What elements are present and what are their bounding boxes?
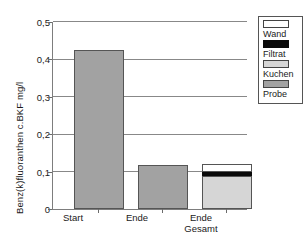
legend-item-kuchen[interactable]: Kuchen	[262, 60, 299, 79]
legend-item-filtrat[interactable]: Filtrat	[262, 40, 299, 59]
bar-segment-probe	[74, 50, 124, 209]
legend-swatch-filtrat	[263, 40, 289, 48]
plot-area	[52, 22, 247, 210]
legend-swatch-kuchen	[263, 60, 289, 68]
bar-start[interactable]	[74, 50, 124, 209]
legend-swatch-wand	[263, 20, 289, 28]
legend-label-probe: Probe	[263, 89, 299, 99]
legend-label-filtrat: Filtrat	[263, 49, 299, 59]
bar-segment-kuchen	[202, 176, 252, 209]
y-axis-title-container: Benz(k)fluoranthen c.BKF mg/l	[0, 14, 16, 214]
bar-segment-wand	[202, 164, 252, 172]
legend-label-kuchen: Kuchen	[263, 69, 299, 79]
bar-segment-filtrat	[202, 172, 252, 176]
legend-swatch-probe	[263, 80, 289, 88]
x-tick-label-start: Start	[48, 212, 98, 223]
bar-ende-gesamt[interactable]	[202, 164, 252, 209]
legend-item-wand[interactable]: Wand	[262, 20, 299, 39]
x-tick-label-ende: Ende	[112, 212, 162, 223]
chart-legend: Wand Filtrat Kuchen Probe	[258, 16, 303, 104]
x-tick-mark-ende-gesamt	[226, 209, 227, 213]
gridline-0-5	[53, 21, 247, 22]
x-tick-mark-ende	[162, 209, 163, 213]
bar-ende[interactable]	[138, 165, 188, 209]
y-axis-title: Benz(k)fluoranthen c.BKF mg/l	[14, 14, 25, 214]
legend-label-wand: Wand	[263, 29, 299, 39]
x-tick-label-ende-gesamt: Ende Gesamt	[176, 212, 226, 234]
bar-segment-probe	[138, 165, 188, 209]
x-tick-mark-start	[98, 209, 99, 213]
legend-item-probe[interactable]: Probe	[262, 80, 299, 99]
chart-figure: Benz(k)fluoranthen c.BKF mg/l 0,5 0,4 0,…	[0, 0, 308, 238]
